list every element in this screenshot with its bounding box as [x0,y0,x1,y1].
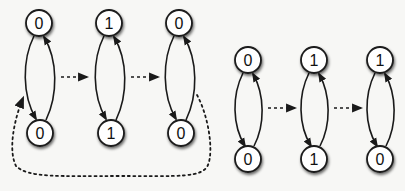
edge-down-arrow [165,36,176,119]
right-group: 0 1 1 0 1 0 [235,47,394,172]
node-label: 1 [107,125,116,142]
left-group: 0 1 0 0 1 0 [12,10,210,176]
edge-down-arrow [367,73,377,146]
right-stage-3-edges [367,73,394,146]
right-stage-1-edges [235,73,262,146]
node-label: 1 [376,52,385,69]
edge-up-arrow [184,37,195,120]
node-label: 0 [244,52,253,69]
left-stage-3-edges [165,36,195,120]
edge-down-arrow [95,36,106,119]
edge-down-arrow [235,73,245,146]
node-label: 1 [310,151,319,168]
edge-up-arrow [385,74,394,146]
left-stage-1-edges [25,36,55,120]
edge-up-arrow [253,74,262,146]
edge-up-arrow [319,74,328,146]
node-label: 1 [105,15,114,32]
node-label: 1 [310,52,319,69]
left-stage-2-edges [95,36,125,120]
diagram-canvas: 0 1 0 0 1 0 0 1 1 [0,0,405,191]
node-label: 0 [35,15,44,32]
node-label: 0 [177,125,186,142]
node-label: 0 [175,15,184,32]
edge-up-arrow [44,37,55,120]
node-label: 0 [376,151,385,168]
edge-down-arrow [25,36,36,119]
node-label: 0 [36,125,45,142]
edge-down-arrow [301,73,311,146]
node-label: 0 [244,151,253,168]
right-stage-2-edges [301,73,328,146]
state-transition-diagram: 0 1 0 0 1 0 0 1 1 [0,0,405,191]
edge-up-arrow [114,37,125,120]
